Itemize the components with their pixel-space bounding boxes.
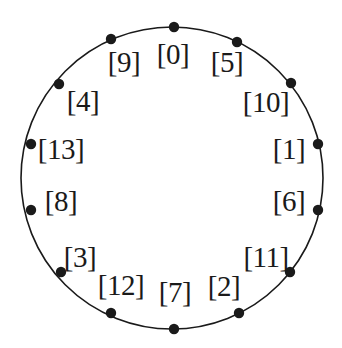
node-dot[interactable]	[313, 205, 323, 215]
node-label: [4]	[67, 87, 99, 116]
node-dot[interactable]	[234, 308, 244, 318]
node-label: [7]	[159, 278, 191, 307]
node-label: [6]	[273, 187, 305, 216]
node-dot[interactable]	[169, 324, 179, 334]
node-dot[interactable]	[54, 79, 64, 89]
node-label: [5]	[211, 48, 243, 77]
node-dot[interactable]	[26, 205, 36, 215]
node-dot[interactable]	[169, 22, 179, 32]
circle-diagram: [0][5][10][1][6][11][2][7][12][3][8][13]…	[0, 0, 342, 348]
node-dot[interactable]	[106, 308, 116, 318]
node-label: [9]	[108, 48, 140, 77]
node-dot[interactable]	[106, 34, 116, 44]
node-label: [10]	[243, 88, 289, 117]
node-label: [2]	[208, 272, 240, 301]
node-dot[interactable]	[313, 139, 323, 149]
node-label: [13]	[38, 135, 84, 164]
node-label: [12]	[98, 271, 144, 300]
node-label: [0]	[157, 40, 189, 69]
node-dot[interactable]	[26, 139, 36, 149]
node-label: [8]	[45, 187, 77, 216]
node-label: [1]	[273, 135, 305, 164]
node-label: [3]	[64, 243, 96, 272]
node-label: [11]	[243, 243, 288, 272]
